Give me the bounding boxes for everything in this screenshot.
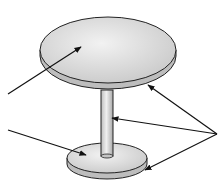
- table-column: [101, 90, 113, 158]
- arrow-tabletop-edge: [148, 85, 217, 134]
- table-diagram: [0, 0, 223, 189]
- arrow-base-top: [8, 130, 86, 155]
- arrow-base-edge: [145, 134, 217, 170]
- arrow-column: [112, 118, 217, 134]
- tabletop: [40, 17, 176, 89]
